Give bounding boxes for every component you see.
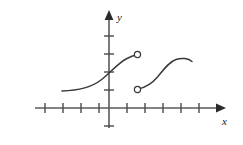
arrow-right-icon <box>216 104 226 113</box>
curves-group <box>62 55 192 91</box>
arrow-up-icon <box>105 10 114 20</box>
open-endpoint-upper <box>134 51 140 57</box>
open-endpoint-lower <box>134 86 140 92</box>
y-axis-label: y <box>116 11 122 23</box>
x-axis-label: x <box>221 115 227 127</box>
curve-right-branch <box>138 58 192 89</box>
curve-left-branch <box>62 55 136 91</box>
graph-figure: y x <box>0 0 243 145</box>
open-endpoints-group <box>134 51 140 92</box>
coordinate-plane-svg: y x <box>0 0 243 145</box>
